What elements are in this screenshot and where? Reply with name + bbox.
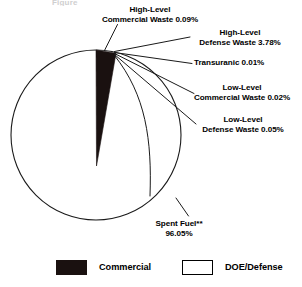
- label-hl-defense-line1: High-Level: [178, 28, 302, 38]
- legend-label-commercial: Commercial: [99, 262, 151, 272]
- label-ll-commercial-line1: Low-Level: [182, 83, 302, 93]
- chart-legend: Commercial DOE/Defense: [0, 256, 302, 280]
- label-hl-defense: High-Level Defense Waste 3.78%: [178, 28, 302, 48]
- legend-swatch-doe-defense: [182, 260, 213, 275]
- label-ll-commercial: Low-Level Commercial Waste 0.02%: [182, 83, 302, 103]
- legend-swatch-commercial: [56, 260, 87, 275]
- label-ll-commercial-line2: Commercial Waste 0.02%: [182, 93, 302, 103]
- leader-line-spent-fuel: [176, 198, 189, 216]
- label-transuranic-line1: Transuranic 0.01%: [194, 58, 302, 68]
- leader-line-hl-commercial: [105, 25, 118, 51]
- label-hl-defense-line2: Defense Waste 3.78%: [178, 38, 302, 48]
- label-spent-fuel-line1: Spent Fuel**: [126, 219, 232, 229]
- label-transuranic: Transuranic 0.01%: [194, 58, 302, 68]
- legend-item-doe-defense: DOE/Defense: [182, 259, 283, 275]
- label-hl-commercial-line1: High-Level: [78, 5, 222, 15]
- label-spent-fuel-line2: 96.05%: [126, 229, 232, 239]
- pie-chart-figure: Figure High-Level Commercial Waste 0.09%: [0, 0, 302, 287]
- label-ll-defense: Low-Level Defense Waste 0.05%: [184, 115, 302, 135]
- label-ll-defense-line1: Low-Level: [184, 115, 302, 125]
- legend-item-commercial: Commercial: [56, 259, 151, 275]
- label-spent-fuel: Spent Fuel** 96.05%: [126, 219, 232, 239]
- label-hl-commercial: High-Level Commercial Waste 0.09%: [78, 5, 222, 25]
- label-hl-commercial-line2: Commercial Waste 0.09%: [78, 15, 222, 25]
- label-ll-defense-line2: Defense Waste 0.05%: [184, 125, 302, 135]
- legend-label-doe-defense: DOE/Defense: [225, 262, 283, 272]
